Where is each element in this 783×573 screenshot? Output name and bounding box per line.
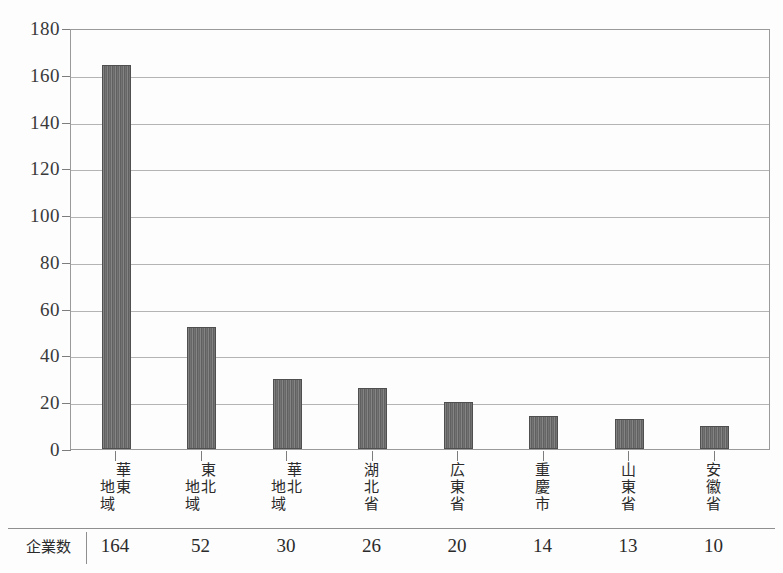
x-label-char: 省 bbox=[706, 496, 722, 513]
x-label-column: 華東 bbox=[115, 462, 131, 496]
x-label-char: 華 bbox=[286, 462, 302, 479]
x-label-char: 地 bbox=[99, 479, 115, 496]
x-tick-mark bbox=[543, 451, 544, 461]
x-tick-label: 広東省 bbox=[449, 462, 466, 513]
x-label-char: 地 bbox=[270, 479, 286, 496]
x-label-char: 徽 bbox=[706, 479, 722, 496]
bar-chart-figure: 180160140120100806040200 華東地域東北地域華北地域湖北省… bbox=[0, 0, 783, 573]
x-tick-label: 重慶市 bbox=[534, 462, 551, 513]
bar bbox=[700, 426, 729, 449]
x-label-char: 域 bbox=[99, 496, 115, 513]
bars-group bbox=[71, 30, 769, 449]
x-label-char: 東 bbox=[620, 479, 636, 496]
x-label-char: 湖 bbox=[364, 462, 380, 479]
y-tick-label: 60 bbox=[4, 300, 60, 319]
x-label-column: 広東省 bbox=[449, 462, 465, 513]
x-label-char: 省 bbox=[364, 496, 380, 513]
bar bbox=[358, 388, 387, 449]
y-tick-label: 80 bbox=[4, 253, 60, 272]
x-label-column: 地域 bbox=[270, 462, 286, 513]
x-label-char: 省 bbox=[449, 496, 465, 513]
x-tick-label: 安徽省 bbox=[705, 462, 722, 513]
y-tick-mark bbox=[62, 450, 71, 451]
x-label-column: 地域 bbox=[185, 462, 201, 513]
x-label-column: 地域 bbox=[99, 462, 115, 513]
table-cell: 52 bbox=[171, 535, 231, 557]
table-cell: 26 bbox=[342, 535, 402, 557]
bar bbox=[102, 65, 131, 449]
y-tick-label: 160 bbox=[4, 66, 60, 85]
x-label-char: 慶 bbox=[535, 479, 551, 496]
data-table: 企業数 16452302620141310 bbox=[8, 528, 775, 568]
x-label-column: 湖北省 bbox=[364, 462, 380, 513]
x-label-char: 北 bbox=[201, 479, 217, 496]
x-tick-mark bbox=[628, 451, 629, 461]
x-label-column: 東北 bbox=[201, 462, 217, 496]
y-tick-label: 0 bbox=[4, 440, 60, 459]
plot-area bbox=[70, 29, 770, 450]
x-label-column: 重慶市 bbox=[535, 462, 551, 513]
x-label-char: 北 bbox=[364, 479, 380, 496]
x-label-char: 東 bbox=[449, 479, 465, 496]
table-cell: 164 bbox=[85, 535, 145, 557]
x-label-char: 市 bbox=[535, 496, 551, 513]
y-tick-label: 120 bbox=[4, 159, 60, 178]
y-tick-label: 20 bbox=[4, 393, 60, 412]
x-label-char: 東 bbox=[201, 462, 217, 479]
x-label-char: 東 bbox=[115, 479, 131, 496]
x-tick-mark bbox=[115, 451, 116, 461]
x-tick-label: 山東省 bbox=[620, 462, 637, 513]
x-label-char: 省 bbox=[620, 496, 636, 513]
x-label-column: 安徽省 bbox=[706, 462, 722, 513]
bar bbox=[615, 419, 644, 449]
x-label-column: 華北 bbox=[286, 462, 302, 496]
x-tick-label: 湖北省 bbox=[363, 462, 380, 513]
y-tick-label: 40 bbox=[4, 346, 60, 365]
bar bbox=[187, 327, 216, 449]
x-label-char: 華 bbox=[115, 462, 131, 479]
bar bbox=[444, 402, 473, 449]
y-tick-label: 140 bbox=[4, 113, 60, 132]
x-label-char: 域 bbox=[270, 496, 286, 513]
table-top-rule bbox=[8, 528, 775, 529]
y-axis: 180160140120100806040200 bbox=[0, 0, 60, 480]
x-tick-mark bbox=[286, 451, 287, 461]
x-label-char: 安 bbox=[706, 462, 722, 479]
x-label-char: 北 bbox=[286, 479, 302, 496]
x-label-column: 山東省 bbox=[620, 462, 636, 513]
x-tick-label: 東北地域 bbox=[184, 462, 218, 513]
x-label-char: 山 bbox=[620, 462, 636, 479]
x-label-char: 域 bbox=[185, 496, 201, 513]
x-label-char: 重 bbox=[535, 462, 551, 479]
x-tick-label: 華北地域 bbox=[269, 462, 303, 513]
x-tick-mark bbox=[372, 451, 373, 461]
x-tick-mark bbox=[201, 451, 202, 461]
x-tick-mark bbox=[714, 451, 715, 461]
table-cell: 10 bbox=[684, 535, 744, 557]
y-tick-label: 180 bbox=[4, 19, 60, 38]
x-tick-mark bbox=[457, 451, 458, 461]
table-row-header: 企業数 bbox=[14, 537, 82, 557]
x-label-char: 地 bbox=[185, 479, 201, 496]
table-cell: 20 bbox=[427, 535, 487, 557]
table-cell: 30 bbox=[256, 535, 316, 557]
x-label-char: 広 bbox=[449, 462, 465, 479]
bar bbox=[273, 379, 302, 449]
y-tick-label: 100 bbox=[4, 206, 60, 225]
x-tick-label: 華東地域 bbox=[98, 462, 132, 513]
table-cell: 14 bbox=[513, 535, 573, 557]
table-cell: 13 bbox=[598, 535, 658, 557]
bar bbox=[529, 416, 558, 449]
